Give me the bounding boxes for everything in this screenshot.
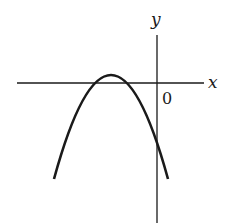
x-axis-label: x xyxy=(208,72,218,92)
origin-label: 0 xyxy=(162,89,172,108)
parabola-diagram: y x 0 xyxy=(0,0,234,223)
y-axis-label: y xyxy=(150,9,161,29)
parabola-curve xyxy=(54,75,168,179)
